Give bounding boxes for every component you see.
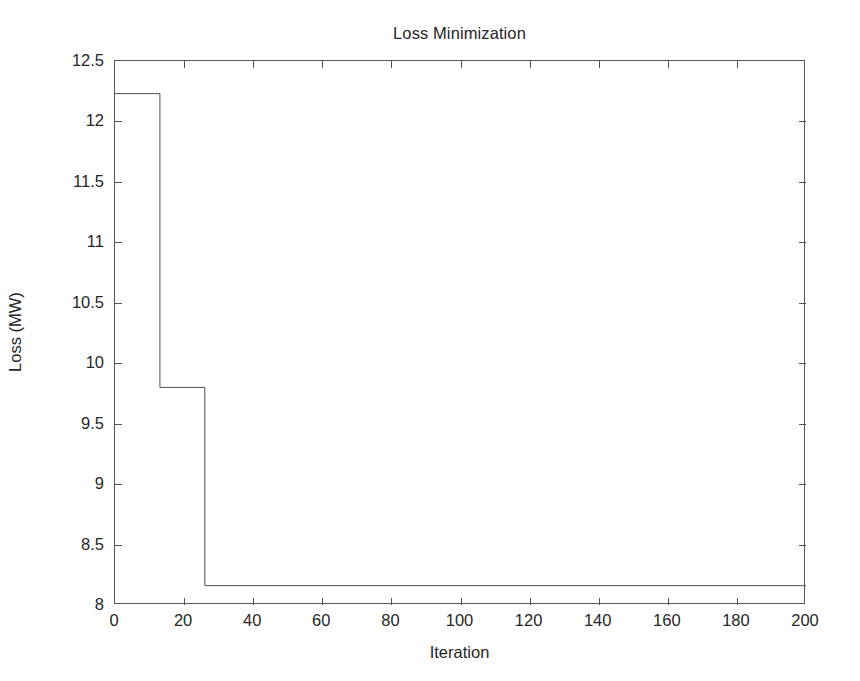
figure-canvas: Loss Minimization Loss (MW) 88.599.51010… (0, 0, 860, 681)
x-axis-title: Iteration (114, 643, 805, 662)
y-tick-label: 12.5 (72, 52, 104, 69)
y-tick-label: 9.5 (81, 414, 104, 431)
x-tick-label: 140 (584, 612, 612, 629)
x-tick-label: 0 (109, 612, 118, 629)
plot-area (114, 60, 805, 604)
y-axis-tick-labels: 88.599.51010.51111.51212.5 (0, 60, 104, 604)
x-tick-label: 40 (243, 612, 261, 629)
data-series-line (115, 94, 806, 586)
y-tick-label: 8 (95, 596, 104, 613)
x-tick-label: 60 (312, 612, 330, 629)
x-tick-label: 80 (381, 612, 399, 629)
y-tick-label: 10 (86, 354, 104, 371)
x-axis-tick-labels: 020406080100120140160180200 (114, 612, 805, 636)
plot-svg (115, 61, 806, 605)
y-tick-label: 11 (87, 233, 104, 250)
y-tick-label: 8.5 (81, 535, 104, 552)
x-tick-label: 200 (791, 612, 819, 629)
x-tick-label: 20 (174, 612, 192, 629)
data-series-group (115, 94, 806, 586)
x-tick-label: 120 (515, 612, 543, 629)
chart-title: Loss Minimization (114, 24, 805, 43)
x-tick-label: 100 (446, 612, 474, 629)
y-tick-label: 12 (86, 112, 104, 129)
y-tick-label: 9 (95, 475, 104, 492)
x-tick-label: 160 (653, 612, 681, 629)
y-tick-label: 11.5 (73, 173, 104, 190)
x-tick-label: 180 (722, 612, 750, 629)
axis-tick-marks (115, 61, 806, 605)
y-tick-label: 10.5 (72, 294, 104, 311)
